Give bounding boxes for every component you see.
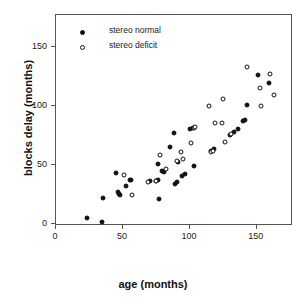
data-point-stereo-deficit [122, 173, 127, 178]
data-point-stereo-deficit [158, 153, 163, 158]
data-point-stereo-deficit [272, 93, 277, 98]
y-tick [51, 46, 55, 47]
data-point-stereo-deficit [193, 124, 198, 129]
data-point-stereo-deficit [258, 103, 263, 108]
filled-circle-icon [80, 30, 85, 35]
data-point-stereo-deficit [229, 132, 234, 137]
data-point-stereo-deficit [154, 179, 159, 184]
data-point-stereo-normal [167, 145, 172, 150]
legend-label: stereo deficit [109, 40, 157, 50]
data-point-stereo-deficit [130, 193, 135, 198]
data-point-stereo-normal [114, 170, 119, 175]
data-point-stereo-deficit [210, 148, 215, 153]
data-point-stereo-normal [171, 130, 176, 135]
data-point-stereo-deficit [163, 167, 168, 172]
x-tick [122, 225, 123, 229]
y-tick-label: 0 [23, 218, 47, 228]
x-tick-label: 50 [117, 231, 127, 241]
data-point-stereo-normal [118, 193, 123, 198]
legend-label: stereo normal [109, 25, 161, 35]
x-tick [189, 225, 190, 229]
data-point-stereo-deficit [257, 86, 262, 91]
data-point-stereo-normal [155, 161, 160, 166]
open-circle-icon [80, 45, 85, 50]
x-tick [256, 225, 257, 229]
data-point-stereo-normal [128, 178, 133, 183]
y-tick [51, 164, 55, 165]
data-point-stereo-deficit [220, 121, 225, 126]
data-point-stereo-normal [256, 73, 261, 78]
y-tick [51, 223, 55, 224]
data-point-stereo-deficit [181, 156, 186, 161]
data-point-stereo-deficit [245, 64, 250, 69]
data-point-stereo-normal [84, 215, 89, 220]
data-point-stereo-normal [174, 180, 179, 185]
data-point-stereo-normal [157, 196, 162, 201]
scatter-plot-figure: stereo normalstereo deficit 050100150 05… [0, 0, 306, 304]
data-point-stereo-normal [236, 127, 241, 132]
data-point-stereo-normal [245, 102, 250, 107]
data-point-stereo-normal [191, 163, 196, 168]
data-point-stereo-deficit [146, 180, 151, 185]
data-point-stereo-normal [266, 81, 271, 86]
data-point-stereo-deficit [178, 149, 183, 154]
data-point-stereo-normal [242, 117, 247, 122]
data-point-stereo-deficit [268, 71, 273, 76]
data-point-stereo-normal [182, 172, 187, 177]
x-tick [55, 225, 56, 229]
data-point-stereo-deficit [174, 159, 179, 164]
data-point-stereo-deficit [222, 140, 227, 145]
data-point-stereo-normal [123, 183, 128, 188]
data-point-stereo-deficit [189, 141, 194, 146]
data-point-stereo-deficit [221, 96, 226, 101]
data-point-stereo-deficit [206, 103, 211, 108]
x-axis-label: age (months) [0, 278, 306, 290]
x-tick-label: 150 [248, 231, 263, 241]
x-tick-label: 0 [52, 231, 57, 241]
plot-frame: stereo normalstereo deficit [55, 14, 292, 225]
y-axis-label: blocks delay (months) [22, 38, 34, 198]
data-point-stereo-deficit [213, 121, 218, 126]
data-point-stereo-normal [99, 220, 104, 225]
y-tick [51, 105, 55, 106]
data-point-stereo-normal [100, 195, 105, 200]
x-tick-label: 100 [181, 231, 196, 241]
plot-data-area [56, 15, 291, 224]
